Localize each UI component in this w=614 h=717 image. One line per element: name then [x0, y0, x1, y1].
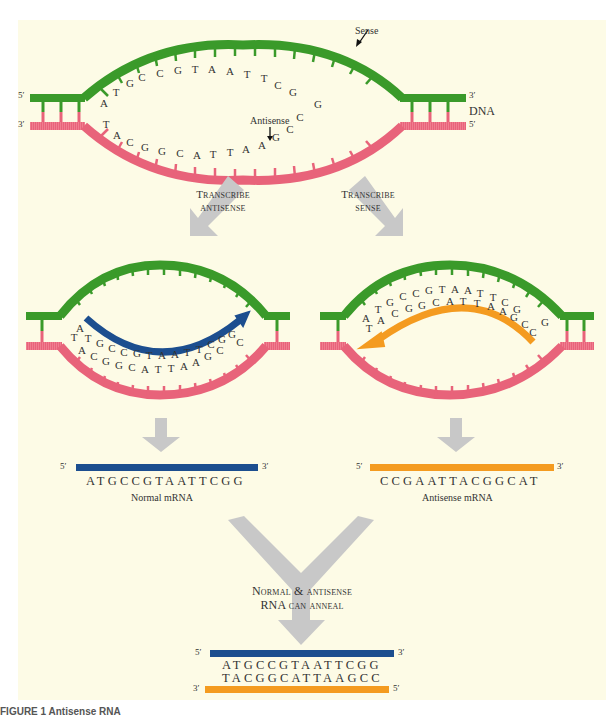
top-left-5prime: 5′ — [18, 90, 24, 100]
left-template-base: A — [192, 356, 200, 368]
right-new-base: T — [366, 322, 373, 334]
antisense-mrna-sequence: CCGAATTACGGCAT — [380, 474, 540, 489]
antisense-base: G — [141, 141, 149, 153]
right-template-base: C — [412, 287, 419, 299]
antisense-base: A — [242, 143, 250, 155]
antisense-mrna-3prime: 3′ — [557, 461, 563, 471]
anneal-label: Normal & antisense RNA can anneal — [220, 584, 384, 612]
left-transcription-bubble — [26, 265, 290, 395]
left-template-base: G — [204, 350, 212, 362]
sense-base: C — [138, 71, 145, 83]
right-new-base: A — [499, 305, 507, 317]
left-template-base: G — [102, 355, 110, 367]
left-template-base: C — [90, 350, 97, 362]
duplex-bottom-sequence: TACGGCATTAAGCC — [222, 671, 383, 686]
duplex-top-5prime: 5′ — [195, 647, 201, 657]
sense-base: G — [126, 77, 134, 89]
antisense-base: T — [103, 118, 110, 130]
transcribe-sense-label: Transcribe sense — [333, 188, 403, 214]
left-new-base: A — [171, 348, 179, 360]
sense-base: T — [113, 86, 120, 98]
normal-mrna-label: Normal mRNA — [131, 492, 193, 503]
left-template-base: C — [128, 361, 135, 373]
right-new-base: T — [474, 297, 481, 309]
left-template-base: T — [155, 363, 162, 375]
top-left-3prime: 3′ — [18, 119, 24, 129]
antisense-base: C — [126, 136, 133, 148]
antisense-mrna-bar — [370, 464, 554, 471]
dna-label: DNA — [469, 104, 495, 119]
left-new-base: G — [133, 347, 141, 359]
right-new-base: A — [446, 295, 454, 307]
antisense-base: C — [176, 147, 183, 159]
right-new-base: A — [487, 300, 495, 312]
right-new-base: G — [418, 299, 426, 311]
right-new-base: C — [529, 326, 536, 338]
down-arrows — [142, 418, 475, 452]
left-new-base: T — [85, 332, 92, 344]
left-new-base: T — [184, 346, 191, 358]
left-new-base: C — [120, 346, 127, 358]
right-new-base: T — [460, 295, 467, 307]
left-new-base: A — [158, 349, 166, 361]
left-template-base: A — [180, 360, 188, 372]
left-template-base: T — [168, 362, 175, 374]
transcribe-antisense-line2: antisense — [188, 201, 258, 214]
antisense-base: T — [227, 146, 234, 158]
right-new-base: C — [432, 296, 439, 308]
sense-base: A — [208, 63, 216, 75]
right-new-base: G — [510, 311, 518, 323]
right-new-base: A — [377, 314, 385, 326]
right-template-base: G — [541, 316, 549, 328]
antisense-label: Antisense — [250, 115, 289, 126]
left-template-base: A — [78, 344, 86, 356]
sense-base: G — [289, 86, 297, 98]
figure-caption: FIGURE 1 Antisense RNA — [0, 706, 121, 717]
right-template-base: T — [439, 283, 446, 295]
anneal-merge-arrow — [228, 516, 374, 645]
sense-base: T — [261, 72, 268, 84]
sense-base: T — [192, 63, 199, 75]
normal-mrna-bar — [76, 464, 258, 471]
duplex-bottom-5prime: 5′ — [393, 683, 399, 693]
left-new-base: T — [196, 343, 203, 355]
sense-base: C — [156, 67, 163, 79]
transcribe-antisense-label: Transcribe antisense — [188, 188, 258, 214]
top-right-5prime: 5′ — [469, 119, 475, 129]
transcribe-antisense-line1: Transcribe — [188, 188, 258, 201]
duplex-top-bar — [210, 650, 394, 657]
duplex-top-3prime: 3′ — [398, 647, 404, 657]
left-new-base: G — [228, 328, 236, 340]
antisense-base: G — [158, 145, 166, 157]
duplex-bottom-bar — [205, 686, 389, 693]
left-new-base: G — [96, 337, 104, 349]
antisense-base: T — [210, 148, 217, 160]
sense-base: T — [244, 68, 251, 80]
antisense-base: C — [286, 123, 293, 135]
normal-mrna-5prime: 5′ — [60, 461, 66, 471]
left-new-base: T — [146, 349, 153, 361]
left-template-base: C — [236, 336, 243, 348]
antisense-base: G — [272, 131, 280, 143]
anneal-line1: Normal & antisense — [220, 584, 384, 598]
top-dna-bubble — [30, 30, 466, 180]
antisense-base: A — [258, 139, 266, 151]
sense-base: G — [314, 98, 322, 110]
antisense-mrna-label: Antisense mRNA — [422, 492, 493, 503]
right-template-base: A — [451, 283, 459, 295]
antisense-base: A — [193, 149, 201, 161]
right-template-base: C — [399, 290, 406, 302]
right-new-base: C — [521, 318, 528, 330]
sense-base: C — [274, 79, 281, 91]
left-new-base: C — [108, 342, 115, 354]
left-template-base: A — [141, 363, 149, 375]
transcribe-sense-line2: sense — [333, 201, 403, 214]
sense-base: A — [100, 97, 108, 109]
left-new-base: C — [207, 338, 214, 350]
left-template-base: C — [216, 344, 223, 356]
antisense-base: C — [296, 111, 303, 123]
sense-base: A — [226, 65, 234, 77]
antisense-mrna-5prime: 5′ — [356, 461, 362, 471]
normal-mrna-sequence: ATGCCGTAATTCGG — [86, 474, 246, 489]
right-new-base: G — [405, 302, 413, 314]
